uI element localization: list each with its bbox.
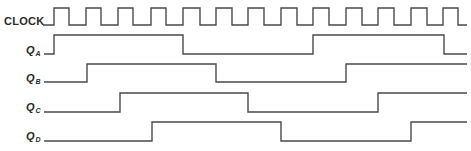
clock-waveform bbox=[43, 8, 467, 25]
qc-waveform bbox=[44, 93, 467, 112]
qd-waveform bbox=[44, 122, 467, 141]
qa-waveform bbox=[44, 35, 467, 54]
qb-waveform bbox=[44, 64, 467, 82]
waveforms bbox=[0, 0, 471, 151]
